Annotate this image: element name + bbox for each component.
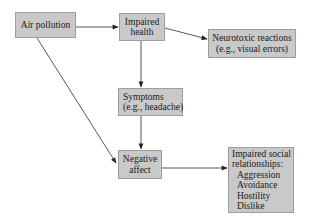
list-item: Aggression bbox=[232, 170, 280, 181]
list-item: Hostility bbox=[232, 191, 270, 202]
node-label: (e.g., visual errors) bbox=[216, 44, 288, 55]
edge-air-to-affect bbox=[37, 38, 116, 163]
node-label: relationships: bbox=[232, 159, 283, 170]
list-item: Avoidance bbox=[232, 180, 277, 191]
node-air-pollution: Air pollution bbox=[15, 12, 76, 38]
diagram-canvas: Air pollution Impaired health Neurotoxic… bbox=[0, 0, 310, 220]
node-label: health bbox=[130, 27, 153, 38]
node-label: Air pollution bbox=[21, 20, 70, 31]
node-neurotoxic-reactions: Neurotoxic reactions (e.g., visual error… bbox=[208, 29, 296, 58]
list-item: Dislike bbox=[232, 201, 264, 212]
node-label: Symptoms bbox=[123, 92, 164, 103]
node-impaired-social-relationships: Impaired social relationships: Aggressio… bbox=[228, 147, 294, 213]
node-negative-affect: Negative affect bbox=[118, 150, 162, 179]
node-impaired-health: Impaired health bbox=[119, 13, 165, 41]
node-label: affect bbox=[129, 165, 150, 176]
node-label: Impaired bbox=[125, 17, 159, 28]
node-label: Neurotoxic reactions bbox=[212, 33, 291, 44]
node-symptoms: Symptoms (e.g., headache) bbox=[118, 88, 183, 116]
node-label: Negative bbox=[123, 154, 157, 165]
node-label: Impaired social bbox=[232, 149, 291, 160]
edge-health-to-neurotoxic bbox=[165, 28, 207, 39]
node-label: (e.g., headache) bbox=[123, 102, 183, 113]
